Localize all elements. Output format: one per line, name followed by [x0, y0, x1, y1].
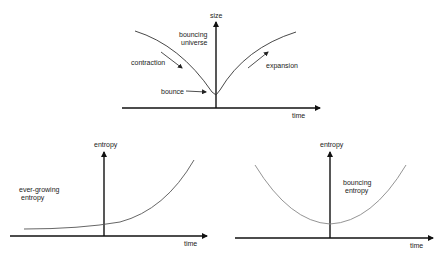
title-line2: universe — [181, 39, 208, 46]
entropy-axis-label: entropy — [320, 141, 344, 149]
time-axis-label: time — [410, 242, 423, 249]
expansion-label: expansion — [266, 62, 298, 70]
time-axis-label: time — [292, 112, 305, 119]
title-line1: bouncing — [179, 31, 208, 39]
entropy-axis-label: entropy — [94, 141, 118, 149]
size-axis-label: size — [210, 12, 223, 19]
contraction-label: contraction — [131, 59, 165, 66]
bounce-arrow — [186, 91, 206, 92]
entropy-curve — [24, 160, 194, 229]
bounce-label: bounce — [161, 88, 184, 95]
label-line2: entropy — [21, 194, 45, 202]
ever-growing-entropy-diagram: entropy time ever-growing entropy — [10, 141, 207, 247]
label-line1: bouncing — [343, 179, 372, 187]
label-line1: ever-growing — [19, 186, 60, 194]
label-line2: entropy — [345, 187, 369, 195]
bouncing-universe-diagram: size time bouncing universe contraction … — [122, 12, 320, 119]
bouncing-entropy-diagram: entropy time bouncing entropy — [235, 141, 433, 249]
time-axis-label: time — [184, 240, 197, 247]
diagram-canvas: size time bouncing universe contraction … — [0, 0, 446, 256]
